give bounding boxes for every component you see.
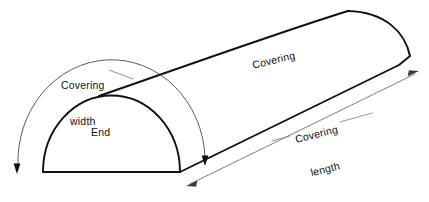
end-label: End [91,126,110,138]
ridge-line [99,11,348,96]
covering-width-arrow-left [14,164,21,175]
covering-length-arrow-start [186,181,198,187]
covering-length-label-line2: length [303,158,348,180]
covering-length-leader-left [272,136,290,141]
covering-length-arrow-end [408,70,420,76]
covering-width-label-line1: Covering [61,79,105,91]
covering-length-label-line1: Covering [294,123,339,145]
covering-length-leader-right [340,113,372,122]
covering-diagram: Covering width End Covering Covering len… [0,0,429,202]
far-end-cap-curve [348,11,410,56]
covering-width-leader-line [109,70,133,79]
far-end-cap-bottom [399,56,410,65]
